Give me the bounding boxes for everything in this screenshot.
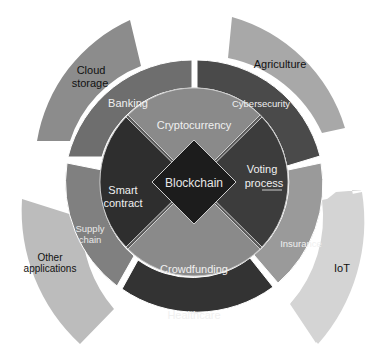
label-healthcare: Healthcare bbox=[167, 309, 220, 321]
label-process: process bbox=[245, 177, 284, 189]
label-voting: Voting bbox=[247, 163, 278, 175]
label-storage: storage bbox=[72, 77, 109, 89]
label-cybersecurity: Cybersecurity bbox=[232, 98, 290, 109]
label-crowdfunding: Crowdfunding bbox=[160, 263, 228, 275]
label-cloud: Cloud bbox=[77, 64, 106, 76]
label-other: Other bbox=[37, 252, 63, 263]
label-iot: IoT bbox=[334, 262, 350, 274]
label-banking: Banking bbox=[108, 97, 148, 109]
label-chain: chain bbox=[79, 234, 102, 245]
label-blockchain: Blockchain bbox=[165, 176, 223, 190]
label-agriculture: Agriculture bbox=[254, 58, 307, 70]
label-smart: Smart bbox=[108, 184, 137, 196]
blockchain-applications-diagram: Blockchain Cryptocurrency Voting process… bbox=[0, 0, 387, 362]
label-contract: contract bbox=[103, 197, 142, 209]
label-applications: applications bbox=[24, 263, 77, 274]
label-supply: Supply bbox=[75, 223, 104, 234]
label-cryptocurrency: Cryptocurrency bbox=[157, 119, 232, 131]
label-insurance: Insurance bbox=[280, 238, 322, 249]
